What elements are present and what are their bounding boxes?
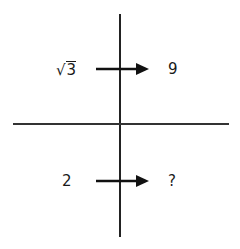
top-arrow-icon: [95, 62, 150, 76]
bottom-arrow-icon: [95, 174, 150, 188]
vertical-axis-line: [119, 14, 121, 237]
bottom-input-label: 2: [62, 173, 72, 189]
horizontal-axis-line: [13, 123, 229, 125]
radicand: 3: [66, 61, 77, 78]
top-output-label: 9: [168, 61, 178, 77]
top-input-label: √3: [56, 61, 76, 78]
bottom-output-label: ?: [168, 173, 176, 189]
sqrt-symbol: √: [56, 61, 66, 79]
